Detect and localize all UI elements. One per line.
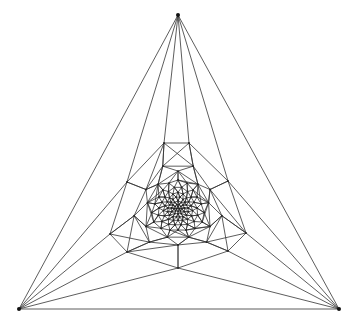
ring-edge — [159, 190, 163, 197]
spoke-edge — [194, 221, 202, 222]
mesh-vertex — [185, 229, 187, 231]
mesh-vertex — [203, 212, 205, 214]
mesh-vertex — [174, 201, 176, 203]
mesh-vertex — [191, 215, 193, 217]
spoke-edge — [169, 183, 174, 187]
spoke-edge — [188, 224, 196, 228]
spoke-edge — [159, 197, 162, 202]
fan-edge — [178, 268, 339, 309]
spoke-edge — [210, 181, 228, 190]
mesh-vertex — [133, 215, 135, 217]
mesh-vertex — [206, 241, 208, 243]
mesh-vertex — [176, 208, 178, 210]
ring-edge — [149, 242, 178, 245]
mesh-vertex — [161, 221, 163, 223]
mesh-vertex — [161, 201, 163, 203]
mesh-edges — [19, 15, 339, 309]
fan-edge — [164, 15, 178, 143]
mesh-vertex — [173, 219, 175, 221]
outer-edge — [19, 15, 178, 309]
spoke-edge — [146, 190, 147, 203]
mesh-vertex — [126, 181, 128, 183]
spoke-edge — [178, 166, 193, 171]
fan-edge — [19, 252, 127, 309]
mesh-vertex — [177, 244, 179, 246]
mesh-vertex — [157, 183, 159, 185]
spoke-edge — [198, 215, 203, 222]
mesh-vertex — [174, 213, 176, 215]
mesh-vertex — [190, 196, 192, 198]
mesh-vertex — [145, 189, 147, 191]
mesh-vertex — [192, 210, 194, 212]
mesh-vertex — [192, 189, 194, 191]
mesh-vertex — [148, 241, 150, 243]
mesh-vertex — [147, 202, 149, 204]
mesh-vertex — [169, 204, 171, 206]
mesh-vertex — [169, 214, 171, 216]
mesh-vertex — [177, 219, 179, 221]
mesh-vertex — [186, 182, 188, 184]
spoke-edge — [194, 221, 195, 228]
mesh-vertex — [179, 210, 181, 212]
mesh-vertex — [192, 165, 194, 167]
spoke-edge — [201, 203, 208, 204]
mesh-vertex — [168, 218, 170, 220]
mesh-vertex — [174, 206, 176, 208]
mesh-vertex — [164, 196, 166, 198]
mesh-nodes — [17, 13, 341, 311]
mesh-vertex — [186, 214, 188, 216]
ring-edge — [194, 215, 198, 221]
mesh-vertex — [177, 170, 179, 172]
mesh-vertex — [178, 208, 180, 210]
triangulated-mesh-diagram — [0, 0, 354, 325]
ring-edge — [162, 221, 169, 224]
mesh-vertex — [221, 215, 223, 217]
mesh-vertex — [197, 214, 199, 216]
ring-edge — [134, 190, 146, 216]
spoke-edge — [134, 216, 146, 227]
mesh-vertex — [182, 216, 184, 218]
mesh-vertex — [188, 142, 190, 144]
mesh-vertex — [186, 204, 188, 206]
mesh-vertex — [177, 267, 179, 269]
spoke-edge — [163, 190, 165, 197]
mesh-vertex — [188, 201, 190, 203]
spoke-edge — [158, 215, 164, 216]
spoke-edge — [207, 242, 228, 251]
mesh-vertex — [184, 201, 186, 203]
spoke-edge — [127, 216, 134, 252]
ring-edge — [163, 183, 169, 190]
spoke-edge — [158, 184, 159, 197]
mesh-vertex — [166, 236, 168, 238]
spoke-edge — [209, 190, 210, 203]
mesh-vertex — [180, 213, 182, 215]
mesh-vertex — [167, 207, 169, 209]
spoke-edge — [163, 166, 178, 171]
mesh-vertex — [179, 216, 181, 218]
mesh-vertex — [162, 189, 164, 191]
ring-edge — [228, 233, 246, 251]
mesh-vertex — [181, 208, 183, 210]
mesh-vertex — [178, 204, 180, 206]
spoke-edge — [127, 182, 146, 190]
ring-edge — [188, 221, 195, 224]
mesh-vertex — [187, 207, 189, 209]
spoke-edge — [147, 203, 154, 204]
mesh-vertex — [176, 216, 178, 218]
mesh-vertex — [227, 250, 229, 252]
mesh-vertex — [182, 219, 184, 221]
ring-edge — [188, 192, 192, 198]
spoke-edge — [189, 237, 207, 242]
spoke-edge — [147, 203, 151, 213]
spoke-edge — [198, 213, 204, 216]
mesh-vertex — [173, 186, 175, 188]
fan-edge — [127, 15, 178, 182]
mesh-vertex — [172, 204, 174, 206]
ring-edge — [210, 190, 222, 216]
spoke-edge — [161, 224, 169, 228]
mesh-vertex — [177, 206, 179, 208]
spoke-edge — [222, 216, 228, 251]
ring-edge — [127, 252, 178, 268]
mesh-vertex — [181, 186, 183, 188]
mesh-vertex — [170, 201, 172, 203]
